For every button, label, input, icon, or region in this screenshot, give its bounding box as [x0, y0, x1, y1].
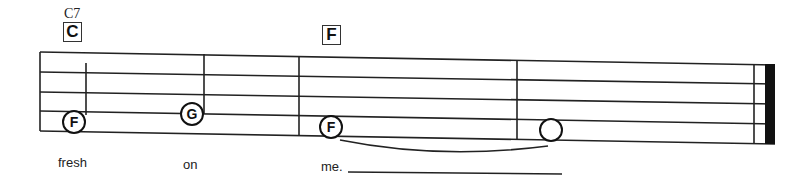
lyric-word: fresh	[58, 156, 87, 169]
note-head-empty	[540, 119, 562, 141]
chord-box: F	[322, 25, 341, 45]
chord-box: C	[63, 22, 82, 42]
note-head: F	[63, 111, 85, 133]
final-barline	[765, 64, 775, 144]
note-head: G	[181, 103, 203, 125]
note-head: F	[320, 116, 342, 138]
note-letter: G	[187, 106, 198, 122]
lyric-extender	[348, 172, 562, 174]
chord-name-small: C7	[64, 7, 80, 21]
note-letter: F	[70, 114, 79, 130]
staff-graphic: F G F	[0, 0, 810, 182]
tie-curve	[340, 140, 548, 152]
note-letter: F	[327, 119, 336, 135]
lyric-word: me.	[321, 160, 343, 173]
lyric-word: on	[183, 158, 197, 171]
staff-lines	[40, 52, 775, 144]
